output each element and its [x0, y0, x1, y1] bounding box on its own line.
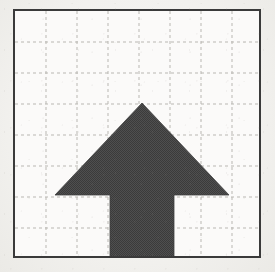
- figure-border-frame: [13, 9, 261, 258]
- figure-canvas: and conditions and conditions the same t…: [0, 0, 275, 272]
- arrow-layer: [15, 11, 259, 256]
- up-arrow-shape: [55, 103, 229, 256]
